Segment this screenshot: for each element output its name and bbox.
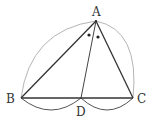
vertex-A (95, 20, 97, 22)
label-A: A (91, 5, 101, 19)
geometry-diagram: A B C D (0, 0, 154, 121)
label-C: C (137, 92, 146, 106)
label-D: D (76, 105, 86, 119)
label-B: B (6, 92, 15, 106)
segment-AC (96, 21, 133, 98)
angle-mark-dot-2 (96, 35, 99, 38)
angle-mark-dot-1 (87, 33, 90, 36)
segment-AD (81, 21, 96, 98)
arc-BD (21, 98, 81, 110)
segment-AB (21, 21, 96, 98)
arc-DC (81, 98, 133, 110)
